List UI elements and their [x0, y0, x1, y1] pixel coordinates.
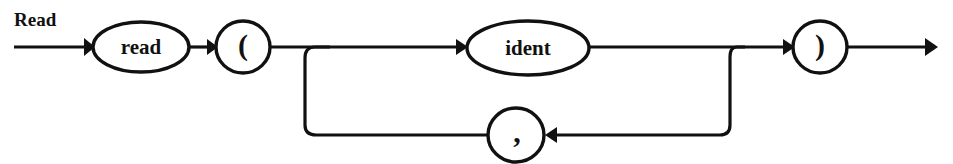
comma-arrowhead — [545, 127, 557, 143]
node-read-label: read — [121, 35, 162, 59]
node-rparen[interactable]: ) — [793, 21, 847, 73]
node-ident[interactable]: ident — [467, 21, 589, 75]
node-read[interactable]: read — [93, 22, 189, 72]
exit-arrowhead — [925, 38, 938, 56]
node-lparen[interactable]: ( — [216, 21, 270, 73]
ident-to-rparen-track — [589, 39, 795, 55]
node-ident-label: ident — [505, 36, 551, 60]
diagram-title: Read — [14, 9, 57, 30]
loop-left-branch — [305, 47, 488, 135]
railroad-diagram: read ( ident , ) Read — [0, 0, 953, 164]
loop-left-path — [305, 47, 488, 135]
exit-track — [847, 38, 938, 56]
lparen-to-ident-track — [270, 39, 468, 55]
node-comma-label: , — [513, 115, 521, 148]
read-to-lparen-track — [189, 39, 218, 55]
node-comma[interactable]: , — [488, 108, 544, 162]
node-lparen-label: ( — [238, 28, 248, 62]
node-rparen-label: ) — [815, 28, 825, 62]
railroad-diagram-canvas: read ( ident , ) Read — [0, 0, 953, 164]
entry-track — [14, 38, 95, 56]
